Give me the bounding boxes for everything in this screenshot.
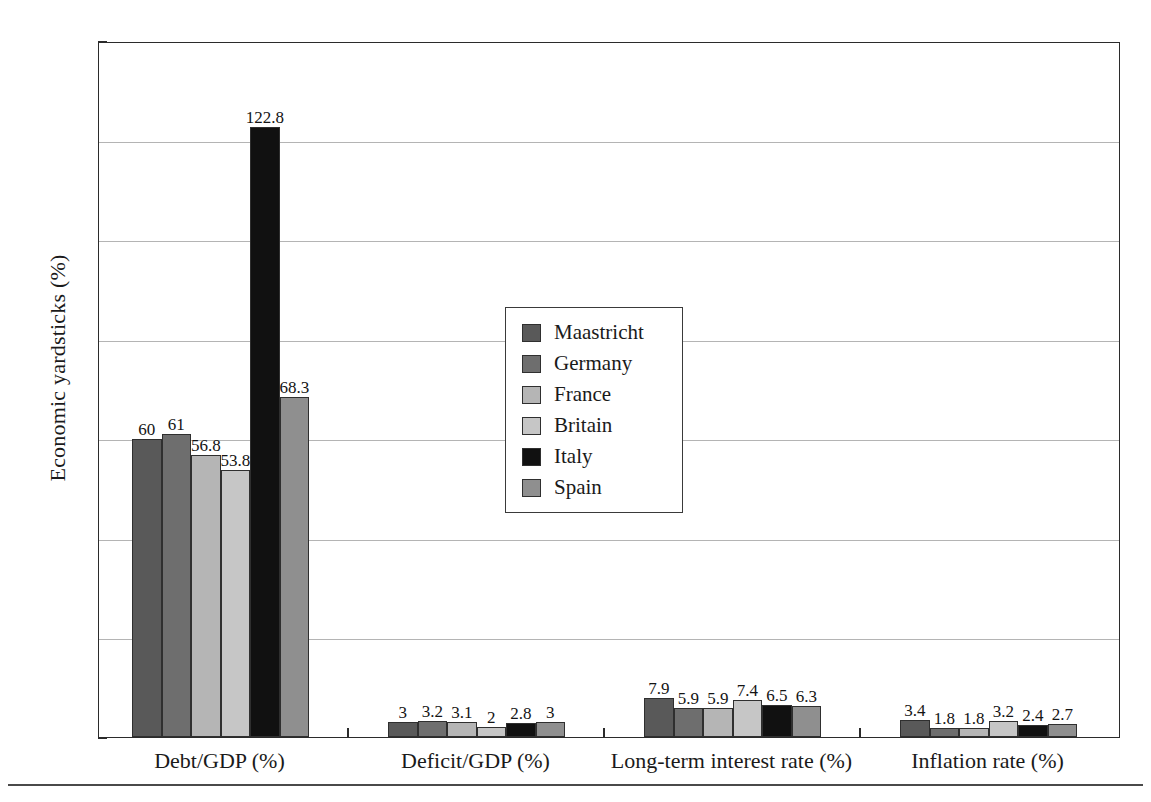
bar xyxy=(536,722,566,737)
legend-item[interactable]: Britain xyxy=(522,410,682,441)
bar xyxy=(132,439,162,737)
legend-swatch-france xyxy=(522,386,541,404)
bar xyxy=(388,722,418,737)
bar-value-label: 61 xyxy=(151,416,203,433)
bar xyxy=(191,455,221,737)
bar-value-label: 3 xyxy=(525,704,577,721)
bar xyxy=(506,723,536,737)
bar-value-label: 68.3 xyxy=(269,379,321,396)
bar xyxy=(703,708,733,737)
bar xyxy=(762,705,792,737)
bar xyxy=(250,127,280,737)
y-axis-title: Economic yardsticks (%) xyxy=(45,18,71,718)
x-axis-category-label: Inflation rate (%) xyxy=(788,748,1151,774)
bar xyxy=(221,470,251,737)
legend-label: Germany xyxy=(554,353,632,374)
x-axis-tick-mark xyxy=(859,728,861,738)
legend-label: Maastricht xyxy=(554,322,644,343)
bar xyxy=(733,700,763,737)
bar xyxy=(959,728,989,737)
footer-rule xyxy=(8,784,1143,786)
x-axis-tick-mark xyxy=(347,728,349,738)
legend-swatch-britain xyxy=(522,417,541,435)
bar xyxy=(792,706,822,737)
bar xyxy=(162,434,192,737)
bar xyxy=(280,397,310,737)
bar-value-label: 122.8 xyxy=(239,109,291,126)
legend-label: Spain xyxy=(554,477,602,498)
plot-area: 606156.853.8122.868.333.23.122.837.95.95… xyxy=(98,42,1120,738)
bar xyxy=(1018,725,1048,737)
bar-chart-figure: Economic yardsticks (%) 0204060801001201… xyxy=(0,0,1151,802)
legend-swatch-italy xyxy=(522,448,541,466)
bar xyxy=(418,721,448,737)
legend-item[interactable]: Spain xyxy=(522,472,682,503)
bar xyxy=(1048,724,1078,737)
bar xyxy=(930,728,960,737)
legend-label: Britain xyxy=(554,415,612,436)
bar xyxy=(674,708,704,737)
legend-item[interactable]: France xyxy=(522,379,682,410)
legend-label: France xyxy=(554,384,611,405)
bar-value-label: 6.3 xyxy=(781,688,833,705)
legend-box: Maastricht Germany France Britain Italy … xyxy=(505,307,683,513)
legend-swatch-germany xyxy=(522,355,541,373)
legend-swatch-spain xyxy=(522,479,541,497)
legend-item[interactable]: Italy xyxy=(522,441,682,472)
bar xyxy=(477,727,507,737)
legend-item[interactable]: Maastricht xyxy=(522,317,682,348)
legend-item[interactable]: Germany xyxy=(522,348,682,379)
legend-swatch-maastricht xyxy=(522,324,541,342)
x-axis-tick-mark xyxy=(603,728,605,738)
legend-label: Italy xyxy=(554,446,592,467)
bar-value-label: 2.7 xyxy=(1037,706,1089,723)
